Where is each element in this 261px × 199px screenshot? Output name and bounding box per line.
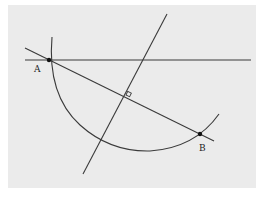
point-a [47,58,51,62]
point-b [198,132,202,136]
label-a: A [33,64,41,74]
label-b: B [199,143,206,153]
background-panel [8,5,256,188]
diagram-canvas: A B [0,0,261,199]
